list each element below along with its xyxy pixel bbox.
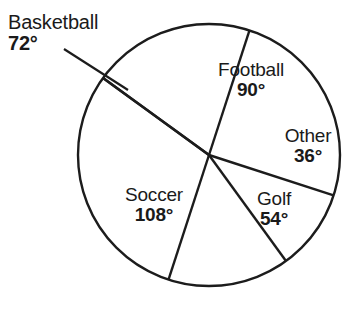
slice-name-basketball: Basketball	[8, 12, 98, 33]
slice-value-football: 90°	[199, 80, 303, 100]
slice-name-football: Football	[199, 60, 303, 80]
pie-chart-figure: Basketball 72° Football 90° Other 36° Go…	[0, 0, 354, 309]
slice-name-soccer: Soccer	[106, 185, 202, 205]
slice-label-football: Football 90°	[199, 60, 303, 100]
slice-label-other: Other 36°	[266, 126, 350, 166]
slice-name-other: Other	[266, 126, 350, 146]
slice-value-basketball: 72°	[8, 33, 98, 54]
slice-name-golf: Golf	[240, 189, 308, 209]
slice-label-basketball: Basketball 72°	[8, 12, 98, 54]
slice-value-other: 36°	[266, 146, 350, 166]
slice-label-soccer: Soccer 108°	[106, 185, 202, 225]
slice-value-golf: 54°	[240, 209, 308, 229]
slice-label-golf: Golf 54°	[240, 189, 308, 229]
slice-value-soccer: 108°	[106, 205, 202, 225]
